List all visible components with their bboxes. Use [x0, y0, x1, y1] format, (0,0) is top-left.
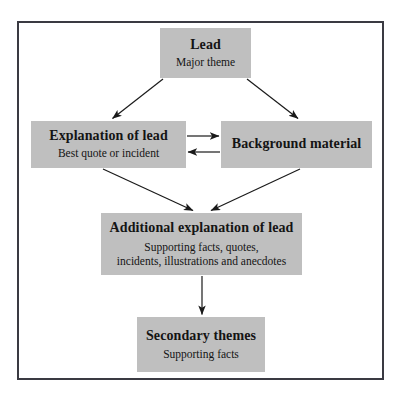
- node-secondary-themes: Secondary themes Supporting facts: [137, 317, 265, 372]
- diagram-root: Lead Major theme Explanation of lead Bes…: [0, 0, 402, 397]
- node-additional-explanation-title: Additional explanation of lead: [110, 220, 294, 236]
- node-secondary-themes-title: Secondary themes: [146, 328, 256, 344]
- node-additional-explanation-subtitle-line2: incidents, illustrations and anecdotes: [117, 254, 286, 268]
- node-background-material-title: Background material: [232, 136, 362, 152]
- node-explanation-of-lead-title: Explanation of lead: [49, 128, 168, 144]
- node-secondary-themes-subtitle: Supporting facts: [163, 348, 239, 361]
- node-lead: Lead Major theme: [160, 28, 251, 78]
- node-lead-subtitle: Major theme: [176, 56, 235, 69]
- node-explanation-of-lead-subtitle: Best quote or incident: [58, 147, 159, 160]
- node-explanation-of-lead: Explanation of lead Best quote or incide…: [31, 121, 186, 168]
- node-background-material: Background material: [221, 121, 372, 168]
- node-additional-explanation-subtitle-line1: Supporting facts, quotes,: [144, 240, 258, 254]
- node-additional-explanation-of-lead: Additional explanation of lead Supportin…: [101, 213, 302, 275]
- node-lead-title: Lead: [190, 37, 221, 53]
